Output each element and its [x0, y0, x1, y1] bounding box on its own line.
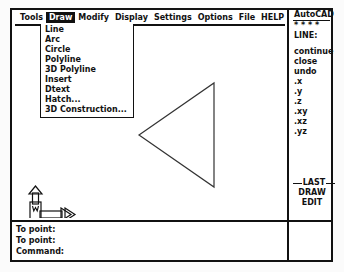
side-option-yz[interactable]: .yz: [293, 127, 331, 137]
menu-bar-items: Tools Draw Modify Display Settings Optio…: [17, 11, 287, 23]
command-line-1: To point:: [16, 224, 331, 235]
menu-display[interactable]: Display: [112, 12, 151, 23]
side-footer-rule-left: [293, 183, 302, 184]
command-line-prompt[interactable]: Command:: [16, 246, 331, 257]
menu-item-arc[interactable]: Arc: [41, 35, 133, 45]
side-option-xz[interactable]: .xz: [293, 117, 331, 127]
draw-pulldown-menu[interactable]: Line Arc Circle Polyline 3D Polyline Ins…: [40, 24, 134, 118]
side-footer-draw[interactable]: DRAW: [293, 188, 335, 198]
menu-item-polyline[interactable]: Polyline: [41, 55, 133, 65]
menu-item-insert[interactable]: Insert: [41, 75, 133, 85]
menu-item-circle[interactable]: Circle: [41, 45, 133, 55]
side-footer-edit[interactable]: EDIT: [293, 198, 335, 208]
side-option-continue[interactable]: continue: [293, 47, 331, 57]
menu-item-3d-construction[interactable]: 3D Construction...: [41, 105, 133, 115]
menu-item-3d-polyline[interactable]: 3D Polyline: [41, 65, 133, 75]
side-option-undo[interactable]: undo: [293, 67, 331, 77]
side-option-x[interactable]: .x: [293, 77, 331, 87]
menu-options[interactable]: Options: [195, 12, 236, 23]
menu-settings[interactable]: Settings: [151, 12, 195, 23]
autocad-screen: Tools Draw Modify Display Settings Optio…: [0, 0, 344, 272]
menu-bar: Tools Draw Modify Display Settings Optio…: [12, 10, 331, 24]
side-footer-rule-right: [326, 183, 335, 184]
menu-file[interactable]: File: [236, 12, 258, 23]
application-window: Tools Draw Modify Display Settings Optio…: [10, 8, 333, 262]
menu-item-dtext[interactable]: Dtext: [41, 85, 133, 95]
side-header-autocad[interactable]: AutoCAD: [293, 10, 330, 21]
menu-draw[interactable]: Draw: [46, 12, 75, 23]
side-panel-footer: LAST DRAW EDIT: [293, 178, 335, 208]
menu-tools[interactable]: Tools: [17, 12, 46, 23]
side-option-close[interactable]: close: [293, 57, 331, 67]
menu-item-hatch[interactable]: Hatch...: [41, 95, 133, 105]
command-line-2: To point:: [16, 235, 331, 246]
side-footer-last[interactable]: LAST: [303, 178, 326, 188]
ucs-icon: [18, 184, 78, 218]
command-area[interactable]: To point: To point: Command:: [12, 222, 331, 260]
menu-help[interactable]: HELP: [258, 12, 287, 23]
side-stars[interactable]: * * * *: [293, 21, 331, 31]
side-active-command: LINE:: [293, 31, 331, 41]
menu-modify[interactable]: Modify: [75, 12, 112, 23]
side-option-y[interactable]: .y: [293, 87, 331, 97]
side-footer-last-row: LAST: [293, 178, 335, 188]
side-option-z[interactable]: .z: [293, 97, 331, 107]
side-option-xy[interactable]: .xy: [293, 107, 331, 117]
menu-item-line[interactable]: Line: [41, 25, 133, 35]
